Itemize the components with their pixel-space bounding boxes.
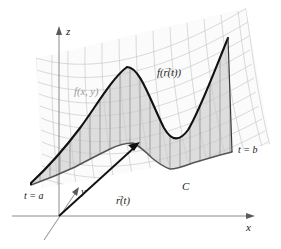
vector-arrow-icon: → xyxy=(163,64,166,72)
top-curve-r-vector: →r xyxy=(163,68,167,79)
x-axis-label: x xyxy=(246,222,251,233)
z-axis-label: z xyxy=(66,26,70,37)
y-axis-arrowhead xyxy=(72,187,79,196)
t-start-label: t = a xyxy=(24,191,44,201)
top-curve-label: f(→r(t)) xyxy=(157,68,181,79)
line-integral-figure: z y x f(x, y) f(→r(t)) →r(t) C t = a t =… xyxy=(0,0,281,249)
curve-label-C: C xyxy=(182,181,189,192)
position-vector-r: →r xyxy=(116,196,120,207)
z-axis-arrowhead xyxy=(56,26,62,35)
x-axis-arrowhead xyxy=(246,213,255,219)
y-axis-label: y xyxy=(81,186,86,197)
vector-arrow-icon: → xyxy=(116,192,119,200)
t-end-label: t = b xyxy=(238,145,258,155)
position-vector-label: →r(t) xyxy=(116,196,130,207)
figure-canvas xyxy=(0,0,281,249)
surface-label: f(x, y) xyxy=(74,87,98,98)
